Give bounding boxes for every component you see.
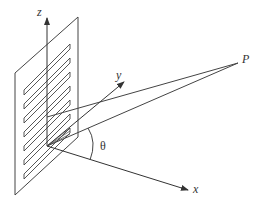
theta-label: θ [100,139,106,153]
x-axis [47,146,188,190]
x-axis-label: x [192,182,199,196]
ray-to-P-origin [47,63,238,146]
y-axis-label: y [115,68,122,82]
point-P-label: P [241,52,250,66]
z-axis-label: z [36,5,42,19]
diagram-canvas: z y x P θ [0,0,261,207]
ray-to-P-upper [47,63,238,117]
theta-arc [88,128,93,160]
